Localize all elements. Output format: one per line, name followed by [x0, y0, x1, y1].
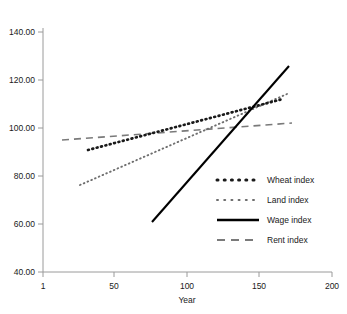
line-chart: 140.00 120.00 100.00 80.00 60.00 40.00 1…: [0, 0, 347, 314]
y-tick-label-40: 40.00: [0, 267, 35, 277]
legend-label-wheat-index: Wheat index: [263, 175, 314, 185]
x-tick-label-100: 100: [167, 281, 207, 291]
legend-label-rent-index: Rent index: [263, 235, 308, 245]
dotted-bold-marker: [215, 173, 263, 187]
legend-item-land-index: Land index: [215, 190, 343, 210]
dashed-line-marker: [215, 233, 263, 247]
y-tick-label-60: 60.00: [0, 219, 35, 229]
y-tick-label-80: 80.00: [0, 171, 35, 181]
y-axis-ticks: [38, 32, 43, 272]
legend-item-rent-index: Rent index: [215, 230, 343, 250]
y-tick-label-140: 140.00: [0, 27, 35, 37]
x-tick-label-150: 150: [239, 281, 279, 291]
chart-legend: Wheat index Land index Wage index: [215, 170, 343, 250]
legend-item-wheat-index: Wheat index: [215, 170, 343, 190]
legend-item-wage-index: Wage index: [215, 210, 343, 230]
x-axis-ticks: [43, 272, 332, 277]
series-line-rent-index: [62, 123, 292, 140]
dotted-light-marker: [215, 193, 263, 207]
x-tick-label-1: 1: [23, 281, 63, 291]
chart-plot-area: [0, 0, 347, 314]
legend-label-land-index: Land index: [263, 195, 309, 205]
x-axis-title: Year: [157, 295, 217, 305]
legend-label-wage-index: Wage index: [263, 215, 312, 225]
y-tick-label-120: 120.00: [0, 75, 35, 85]
y-tick-label-100: 100.00: [0, 123, 35, 133]
x-tick-label-200: 200: [312, 281, 347, 291]
solid-line-marker: [215, 213, 263, 227]
x-tick-label-50: 50: [94, 281, 134, 291]
